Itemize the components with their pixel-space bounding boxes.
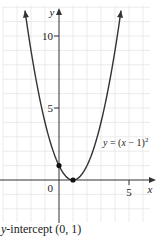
x-tick-label: 5 [126, 186, 132, 198]
y-tick-label: 10 [42, 30, 54, 42]
y-intercept-point [56, 163, 61, 168]
y-intercept-caption: y-intercept (0, 1) [1, 222, 81, 236]
curve-arrow-icon [23, 11, 29, 18]
origin-label: 0 [48, 182, 54, 194]
y-tick-label: 5 [48, 102, 54, 114]
x-axis-label: x [147, 183, 153, 195]
curve-label: y = (x − 1)2 [102, 136, 149, 149]
y-axis-arrow-icon [56, 8, 62, 15]
vertex-point [70, 177, 75, 182]
axes [0, 8, 156, 223]
y-axis-label: y [49, 6, 55, 18]
curve-arrow-icon [117, 11, 123, 18]
tick-marks [54, 36, 129, 185]
caption-text: -intercept (0, 1) [6, 222, 81, 236]
parabola-graph: 51050xyy = (x − 1)2 [0, 0, 157, 237]
